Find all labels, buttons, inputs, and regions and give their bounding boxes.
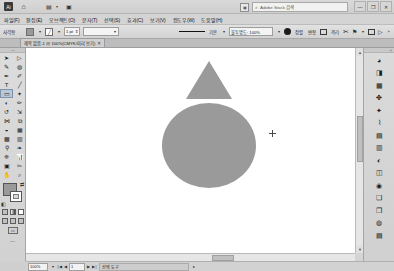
paintbrush-tool[interactable]: ✦ [13,89,26,98]
panel-paragraph[interactable]: ▤ [373,130,386,141]
vertical-scrollbar[interactable]: ▲ ▼ [355,48,363,253]
blend-tool[interactable]: ❧ [13,143,26,152]
last-page-button[interactable]: ▶| [92,264,97,269]
align-button[interactable]: 정렬 [294,29,304,35]
menu-item-1[interactable]: 편집(E) [25,16,43,23]
panel-color-guide[interactable]: ◨ [373,67,386,78]
rectangle-tool[interactable]: ▭ [0,89,13,98]
doc-setup-icon[interactable] [368,29,375,35]
width-tool[interactable]: ⋈ [0,116,13,125]
column-graph-tool[interactable]: 📊 [13,152,26,161]
stroke-color-box[interactable] [10,191,22,202]
zoom-caret-icon[interactable]: ▾ [50,264,55,269]
prev-page-button[interactable]: ◀ [63,264,68,269]
menu-item-6[interactable]: 보기(V) [149,16,167,23]
menu-item-7[interactable]: 윈도우(W) [172,16,196,23]
zoom-tool[interactable]: ⌕ [13,170,26,179]
gradient-tool[interactable]: ▥ [13,134,26,143]
save-icon[interactable]: ▣ [64,2,74,11]
pen-tool[interactable]: ✒ [0,71,13,80]
arrange-icon[interactable] [320,29,327,35]
menu-item-2[interactable]: 오브젝트(O) [48,16,76,23]
artboard[interactable] [26,48,363,253]
swap-fill-stroke-icon[interactable]: ⇄ [20,181,24,187]
menu-item-4[interactable]: 선택(S) [103,16,121,23]
minimize-button[interactable]: — [354,1,366,12]
menu-item-0[interactable]: 파일(F) [3,16,20,23]
color-swatch-icon[interactable] [2,209,8,215]
eyedropper-tool[interactable]: ⚲ [0,143,13,152]
canvas-area[interactable] [26,48,363,253]
lasso-tool[interactable]: ◍ [13,62,26,71]
fill-caret-icon[interactable]: ▾ [37,29,42,34]
panel-artboards[interactable]: ❐ [373,205,386,216]
drawing-mode-inside-icon[interactable] [18,218,24,224]
stroke-style-caret-icon[interactable]: ▾ [221,29,226,34]
transform-button[interactable]: 변형 [307,29,317,35]
panel-brushes[interactable]: ✤ [373,92,386,103]
shaper-tool[interactable]: ◐ [0,98,13,107]
type-tool[interactable]: T [0,80,13,89]
horizontal-scrollbar[interactable] [26,253,355,261]
panel-graphic-styles[interactable]: ◉ [373,180,386,191]
stroke-weight-field[interactable]: 1 pt ⇕ [64,27,80,36]
panel-appearance[interactable]: ◫ [373,167,386,178]
panel-stroke[interactable]: ⌇ [373,117,386,128]
mesh-tool[interactable]: ▩ [0,134,13,143]
none-swatch-icon[interactable] [18,209,24,215]
triangle-shape[interactable] [186,61,232,99]
stroke-profile-field[interactable]: ▾ [83,27,119,36]
opacity-field[interactable]: 불투명도: 100% [229,27,273,36]
stroke-swatch[interactable]: ╱ [45,28,53,36]
default-fill-stroke-icon[interactable]: ◧ [1,201,6,207]
controlbar-overflow-icon[interactable]: » [386,29,391,34]
free-transform-tool[interactable]: ⧉ [13,116,26,125]
fill-swatch[interactable] [26,28,34,36]
pencil-tool[interactable]: ✏ [13,98,26,107]
status-caret-icon[interactable]: ▸ [191,264,196,269]
panel-swatches[interactable]: ▦ [373,80,386,91]
menu-item-8[interactable]: 도움말(H) [200,16,223,23]
panel-color[interactable]: ◕ [373,55,386,66]
selection-tool[interactable]: ➤ [0,53,13,62]
opacity-caret-icon[interactable]: ▾ [276,29,281,34]
tools-overflow-icon[interactable]: ⋯ [10,238,15,244]
open-files-caret-icon[interactable]: ▾ [56,4,58,9]
drawing-mode-behind-icon[interactable] [10,218,16,224]
magic-wand-tool[interactable]: ✎ [0,62,13,71]
slice-tool[interactable]: ✂ [13,161,26,170]
isolate-button[interactable]: 격리 [330,29,340,35]
curvature-tool[interactable]: ✐ [13,71,26,80]
panel-symbols[interactable]: ✦ [373,105,386,116]
menu-item-3[interactable]: 문자(T) [81,16,98,23]
adobe-stock-icon[interactable]: ▣ [240,3,249,12]
panel-libraries[interactable]: ▤ [373,230,386,241]
first-page-button[interactable]: |◀ [57,264,62,269]
stroke-caret-icon[interactable]: ▾ [56,29,61,34]
restore-button[interactable]: ❐ [367,1,379,12]
scissors-icon[interactable]: ✂ [343,28,349,35]
style-swatch[interactable] [284,28,291,35]
drawing-mode-normal-icon[interactable] [2,218,8,224]
close-button[interactable]: ✕ [380,1,392,12]
search-input[interactable]: ⌕ Adobe Stock 검색 [252,2,348,12]
line-segment-tool[interactable]: ╱ [13,80,26,89]
symbol-sprayer-tool[interactable]: ❈ [0,152,13,161]
preferences-icon[interactable]: ▷ [378,29,383,35]
zoom-level-field[interactable]: 100% [28,263,48,271]
open-files-icon[interactable]: ▤ [44,2,54,11]
direct-selection-tool[interactable]: ▷ [13,53,26,62]
next-page-button[interactable]: ▶ [86,264,91,269]
home-icon[interactable]: ⌂ [19,2,28,11]
rotate-tool[interactable]: ↺ [0,107,13,116]
perspective-grid-tool[interactable]: ▦ [13,125,26,134]
panel-layers[interactable]: ❏ [373,192,386,203]
shape-builder-tool[interactable]: ◒ [0,125,13,134]
artboard-tool[interactable]: ▣ [0,161,13,170]
document-tab[interactable]: 제목 없음-1 @ 100%(CMYK/미리 보기) ✕ [20,38,105,47]
menu-item-5[interactable]: 효과(C) [126,16,144,23]
flag-icon[interactable]: ⚑ [352,29,357,35]
gradient-swatch-icon[interactable] [10,209,16,215]
hand-tool[interactable]: ✋ [0,170,13,179]
panel-transparency[interactable]: ◐ [373,155,386,166]
